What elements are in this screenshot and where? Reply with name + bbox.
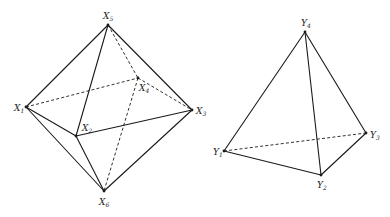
vertex-label-y4: Y4 (301, 18, 311, 29)
vertex-label-y2: Y2 (317, 180, 327, 191)
edge-x1-x2 (26, 107, 76, 136)
vertex-y4 (304, 31, 307, 34)
vertex-label-x2: X2 (81, 123, 92, 134)
edge-y2-y3 (321, 133, 366, 175)
vertex-label-x4: X4 (138, 83, 149, 94)
vertex-x6 (103, 190, 106, 193)
vertex-x5 (107, 24, 110, 27)
vertex-x1 (25, 106, 28, 109)
tetrahedron-figure: Y1Y2Y3Y4 (213, 18, 380, 191)
edge-x5-x3 (108, 25, 192, 110)
octahedron-figure: X1X2X3X4X5X6 (13, 11, 206, 208)
edge-x3-x6 (104, 110, 192, 191)
edge-x2-x3 (76, 110, 192, 136)
vertex-x3 (191, 109, 194, 112)
edge-y1-y2 (224, 151, 321, 175)
vertex-label-x1: X1 (13, 103, 24, 114)
hidden-edge-x1-x4 (26, 78, 138, 107)
vertex-y3 (365, 132, 368, 135)
vertex-y1 (223, 150, 226, 153)
diagram-canvas: X1X2X3X4X5X6 Y1Y2Y3Y4 (0, 0, 390, 217)
vertex-y2 (320, 174, 323, 177)
edge-x2-x6 (76, 136, 104, 191)
vertex-x2 (75, 135, 78, 138)
polyhedra-diagram: X1X2X3X4X5X6 Y1Y2Y3Y4 (0, 0, 390, 217)
vertex-label-x3: X3 (195, 106, 206, 117)
edge-y4-y2 (305, 32, 321, 175)
vertex-label-x6: X6 (98, 197, 109, 208)
vertex-label-y3: Y3 (370, 130, 380, 141)
vertex-label-y1: Y1 (213, 147, 223, 158)
vertex-x4 (137, 77, 140, 80)
edge-y4-y1 (224, 32, 305, 151)
vertex-label-x5: X5 (102, 11, 113, 22)
edge-x1-x6 (26, 107, 104, 191)
hidden-edge-x4-x6 (104, 78, 138, 191)
hidden-edge-y1-y3 (224, 133, 366, 151)
